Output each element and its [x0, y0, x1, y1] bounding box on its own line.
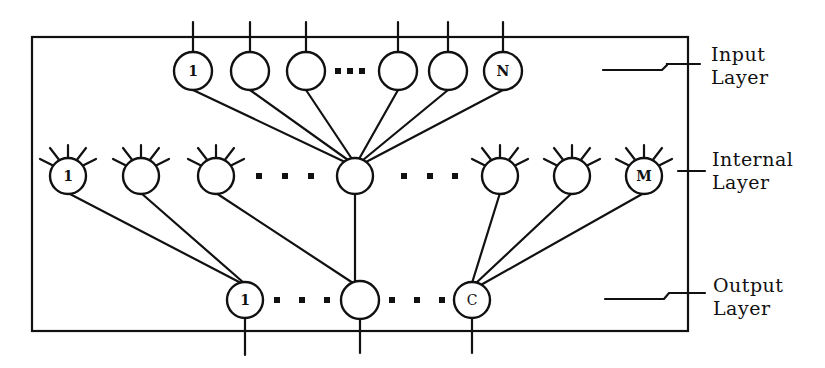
internal-node-5 — [482, 158, 518, 194]
internal-node-central — [337, 158, 373, 194]
output-node-c-label: C — [467, 292, 478, 308]
output-layer-label: Output Layer — [713, 274, 783, 320]
network-diagram: 1 N — [0, 0, 825, 368]
input-layer: 1 N — [174, 22, 522, 90]
output-node-1: 1 — [227, 282, 263, 318]
output-layer-ellipsis-left — [274, 297, 330, 303]
output-layer-label-line1: Output — [713, 274, 783, 297]
input-node-n-label: N — [497, 63, 510, 79]
input-node-1-label: 1 — [188, 63, 198, 79]
internal-layer-label: Internal Layer — [712, 148, 793, 194]
internal-node-m: M — [626, 158, 662, 194]
internal-node-m-label: M — [636, 168, 652, 184]
internal-layer-ellipsis-right — [401, 173, 458, 179]
input-layer-pointer — [603, 64, 700, 70]
input-node-n: N — [484, 52, 522, 90]
output-node-c: C — [454, 282, 490, 318]
input-layer-label-line2: Layer — [711, 66, 769, 89]
input-node-4 — [379, 52, 417, 90]
output-node-middle — [341, 281, 379, 319]
internal-node-1-label: 1 — [63, 168, 73, 184]
input-layer-ellipsis — [335, 68, 365, 74]
input-node-1: 1 — [174, 52, 212, 90]
input-node-2 — [231, 52, 269, 90]
internal-node-1: 1 — [50, 158, 86, 194]
output-layer: 1 C — [227, 281, 490, 355]
internal-layer-label-line1: Internal — [712, 148, 793, 171]
output-node-1-label: 1 — [240, 292, 250, 308]
internal-layer-ellipsis-left — [256, 173, 314, 179]
internal-layer: 1 M — [40, 145, 672, 194]
internal-layer-label-line2: Layer — [712, 171, 793, 194]
output-layer-ellipsis-right — [389, 297, 445, 303]
input-layer-label: Input Layer — [711, 43, 769, 89]
output-layer-pointer — [605, 293, 705, 299]
output-layer-label-line2: Layer — [713, 297, 783, 320]
internal-node-2 — [123, 158, 159, 194]
internal-node-3 — [198, 158, 234, 194]
internal-node-6 — [554, 158, 590, 194]
input-node-5 — [429, 52, 467, 90]
input-node-3 — [287, 52, 325, 90]
input-layer-label-line1: Input — [711, 43, 769, 66]
